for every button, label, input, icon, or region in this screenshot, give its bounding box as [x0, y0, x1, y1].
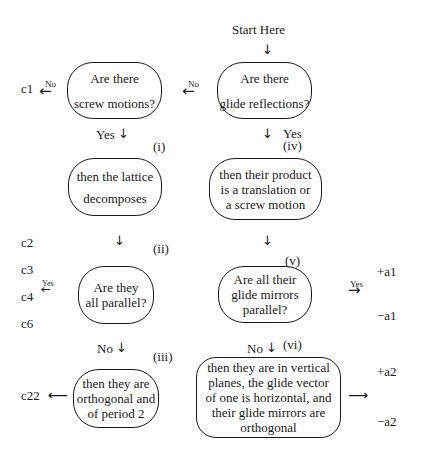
arrow-left-icon: ←: [39, 84, 52, 98]
node-orthogonal-line-2: orthogonal and: [77, 391, 155, 406]
node-lattice-line-1: then the lattice: [77, 169, 154, 184]
arrow-right-icon: ⟶: [348, 388, 368, 402]
node-screws-parallel: Are they all parallel?: [78, 266, 154, 324]
arrow-down-icon: ↓: [262, 234, 273, 248]
node-glide-line-2: glide reflections?: [220, 96, 310, 111]
node-parallel-id: (ii): [153, 241, 169, 256]
arrow-down-icon: ↓: [116, 341, 127, 355]
node-parallel-line-1: Are they: [93, 280, 138, 295]
node-product-line-3: a screw motion: [226, 197, 305, 212]
node-orthogonal-id: (iii): [153, 349, 173, 364]
node-screw-line-1: Are there: [90, 71, 139, 86]
outcome-c1: c1: [21, 81, 33, 96]
edge-label-yes: Yes: [96, 127, 115, 142]
node-orthogonal-line-3: of period 2: [87, 406, 144, 421]
node-vertical-id: (vi): [283, 337, 302, 352]
start-label: Start Here: [232, 22, 285, 37]
outcome-minus-a1: −a1: [377, 308, 397, 323]
node-screw-motions: Are there screw motions?: [67, 62, 162, 119]
outcome-plus-a2: +a2: [377, 364, 397, 379]
node-vertical-line-2: planes, the glide vector: [208, 375, 329, 390]
edge-label-no: No: [247, 341, 263, 356]
node-lattice-decomposes: then the lattice decomposes: [68, 158, 162, 216]
node-parallel-line-2: all parallel?: [86, 295, 147, 310]
node-product-line-1: then their product: [219, 167, 311, 182]
node-vertical-planes: then they are in vertical planes, the gl…: [196, 357, 341, 438]
node-orthogonal-line-1: then they are: [82, 376, 149, 391]
edge-label-no: No: [97, 341, 113, 356]
node-lattice-id: (i): [153, 139, 165, 154]
arrow-left-icon: ←: [41, 282, 51, 296]
outcome-c2: c2: [21, 235, 33, 250]
node-mirrors-line-3: parallel?: [243, 302, 288, 317]
node-vertical-line-3: of one is horizontal, and: [206, 390, 332, 405]
arrow-down-icon: ↓: [118, 127, 129, 141]
node-screw-line-2: screw motions?: [74, 96, 155, 111]
arrow-left-icon: ←: [182, 84, 195, 98]
node-product: then their product is a translation or a…: [209, 158, 322, 220]
arrow-right-icon: →: [348, 283, 361, 297]
arrow-down-icon: ↓: [266, 341, 277, 355]
arrow-down-icon: ↓: [262, 43, 273, 57]
node-mirrors-parallel: Are all their glide mirrors parallel?: [218, 266, 312, 323]
node-product-line-2: is a translation or: [221, 182, 311, 197]
node-product-id: (iv): [283, 138, 302, 153]
node-glide-reflections: Are there glide reflections?: [217, 62, 312, 119]
arrow-down-icon: ↓: [114, 234, 125, 248]
node-orthogonal-period-2: then they are orthogonal and of period 2: [73, 369, 159, 428]
node-vertical-line-4: their glide mirrors are: [212, 405, 326, 420]
node-vertical-line-1: then they are in vertical: [207, 360, 330, 375]
outcome-c4: c4: [21, 289, 33, 304]
node-glide-line-1: Are there: [240, 71, 289, 86]
arrow-down-icon: ↓: [262, 127, 273, 141]
outcome-c22: c22: [21, 388, 40, 403]
node-lattice-line-2: decomposes: [83, 191, 147, 206]
outcome-c3: c3: [21, 262, 33, 277]
node-mirrors-line-1: Are all their: [234, 272, 297, 287]
node-vertical-line-5: orthogonal: [240, 420, 296, 435]
outcome-c6: c6: [21, 316, 33, 331]
outcome-minus-a2: −a2: [377, 414, 397, 429]
arrow-left-icon: ⟵: [48, 388, 68, 402]
outcome-plus-a1: +a1: [377, 264, 397, 279]
node-mirrors-line-2: glide mirrors: [231, 287, 299, 302]
